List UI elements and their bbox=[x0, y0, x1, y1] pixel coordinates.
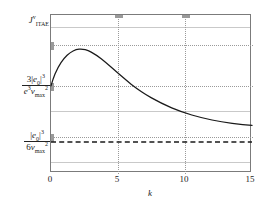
v-sub-denom-2: max bbox=[35, 148, 45, 154]
series-itae-cost bbox=[51, 49, 252, 125]
y-axis-label-lower-bound: |e0|3 6vmax2 bbox=[24, 130, 50, 153]
chart-curves bbox=[51, 15, 252, 173]
fraction-upper-bound: 3|e0|3 e3vmax2 bbox=[22, 74, 50, 97]
xtick-5: 5 bbox=[115, 174, 120, 184]
jitae-subscript: ITAE bbox=[36, 21, 49, 27]
fraction-upper-denominator: e3vmax2 bbox=[22, 86, 50, 97]
v-exp-denom: 2 bbox=[45, 85, 48, 91]
fraction-lower-denominator: 6vmax2 bbox=[24, 142, 50, 153]
plot-frame bbox=[50, 14, 251, 172]
xtick-0: 0 bbox=[48, 174, 53, 184]
e-exp-2: 3 bbox=[41, 129, 44, 135]
v-sub-denom: max bbox=[35, 92, 45, 98]
jitae-superscript: v bbox=[33, 14, 36, 20]
e-exp-1: 3 bbox=[42, 73, 45, 79]
x-axis-title: k bbox=[148, 188, 152, 198]
fraction-lower-bound: |e0|3 6vmax2 bbox=[24, 130, 50, 153]
xtick-10: 10 bbox=[180, 174, 189, 184]
xtick-15: 15 bbox=[246, 174, 255, 184]
y-axis-label-upper-bound: 3|e0|3 e3vmax2 bbox=[22, 74, 50, 97]
itae-cost-figure: 0 5 10 15 k JvITAE 3|e0|3 e3vmax2 |e0|3 … bbox=[0, 0, 265, 208]
y-axis-title-jitae: JvITAE bbox=[29, 16, 49, 25]
v-exp-denom-2: 2 bbox=[45, 141, 48, 147]
